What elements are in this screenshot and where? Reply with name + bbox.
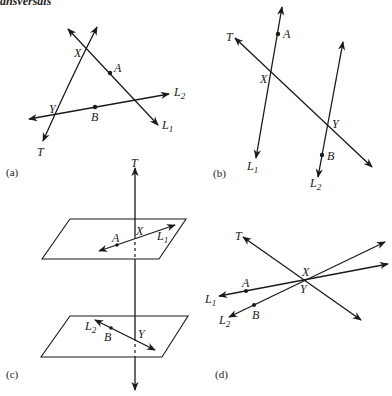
transversal-t — [43, 27, 97, 141]
panel-c: T A X L1 L2 B Y (c) — [6, 156, 188, 390]
label-x: X — [301, 265, 310, 279]
label-l1: L1 — [246, 159, 258, 175]
line-l1 — [68, 29, 158, 125]
label-l1: L1 — [204, 292, 216, 308]
caption-c: (c) — [6, 368, 19, 381]
label-b: B — [104, 330, 112, 344]
point-a — [276, 32, 280, 36]
label-t: T — [226, 30, 234, 44]
label-a: A — [282, 27, 291, 41]
label-a: A — [113, 61, 122, 75]
label-x: X — [73, 46, 82, 60]
label-b: B — [91, 110, 99, 124]
label-x: X — [259, 72, 268, 86]
label-x: X — [135, 224, 144, 238]
label-t: T — [235, 229, 243, 243]
label-a: A — [111, 231, 120, 245]
caption-b: (b) — [213, 167, 226, 180]
caption-d: (d) — [215, 368, 228, 381]
label-y: Y — [332, 117, 340, 131]
label-l2: L2 — [309, 176, 322, 192]
label-l2: L2 — [84, 319, 97, 335]
label-l1: L1 — [161, 118, 173, 134]
label-y: Y — [138, 327, 146, 341]
label-l2: L2 — [218, 313, 231, 329]
lower-plane — [41, 316, 188, 357]
label-t: T — [37, 145, 45, 159]
transversal-t — [235, 38, 372, 167]
point-a — [108, 71, 112, 75]
label-t: T — [131, 156, 139, 170]
caption-a: (a) — [6, 166, 19, 179]
panel-b: T A X Y B L1 L2 (b) — [213, 7, 372, 192]
label-l1: L1 — [156, 229, 168, 245]
label-b: B — [327, 149, 335, 163]
point-b — [320, 153, 324, 157]
panel-a: X A Y B T L2 L1 (a) — [6, 27, 186, 179]
label-a: A — [241, 276, 250, 290]
label-b: B — [252, 308, 260, 322]
transversals-figure: X A Y B T L2 L1 (a) T A X Y B L1 L2 (b) — [0, 0, 392, 396]
panel-d: T X Y A B L1 L2 (d) — [204, 229, 388, 381]
label-y: Y — [300, 282, 308, 296]
point-b — [93, 105, 97, 109]
label-l2: L2 — [173, 85, 186, 101]
point-b — [252, 303, 256, 307]
